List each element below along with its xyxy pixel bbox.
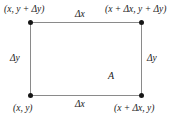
area-label: A xyxy=(108,71,114,81)
coordinate-label-top-right: (x + Δx, y + Δy) xyxy=(105,5,166,15)
rectangle-diagram: (x, y + Δy) (x + Δx, y + Δy) (x, y) (x +… xyxy=(0,0,184,120)
rectangle-top-edge xyxy=(30,22,141,24)
vertex-dot-top-right xyxy=(139,20,144,25)
coordinate-label-bottom-right: (x + Δx, y) xyxy=(114,104,154,114)
rectangle-left-edge xyxy=(30,22,32,95)
side-length-label-top: Δx xyxy=(75,10,85,20)
coordinate-label-bottom-left: (x, y) xyxy=(13,104,33,114)
vertex-dot-top-left xyxy=(28,20,33,25)
side-length-label-right: Δy xyxy=(147,54,157,64)
side-length-label-bottom: Δx xyxy=(75,100,85,110)
vertex-dot-bottom-right xyxy=(139,93,144,98)
rectangle-bottom-edge xyxy=(30,95,141,97)
side-length-label-left: Δy xyxy=(10,54,20,64)
coordinate-label-top-left: (x, y + Δy) xyxy=(4,5,44,15)
vertex-dot-bottom-left xyxy=(28,93,33,98)
rectangle-right-edge xyxy=(141,22,143,95)
